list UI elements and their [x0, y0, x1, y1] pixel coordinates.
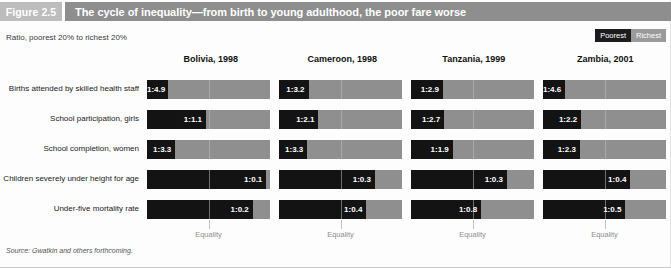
stacked-bar: 1:0.4 — [279, 200, 402, 219]
bar-value-label: 1:0.2 — [147, 200, 253, 219]
column-headers: Bolivia, 1998Cameroon, 1998Tanzania, 199… — [145, 54, 671, 68]
chart-rows: Births attended by skilled health staff1… — [0, 74, 671, 224]
stacked-bar: 1:2.9 — [411, 80, 534, 99]
bar-value-label: 1:0.3 — [411, 170, 507, 189]
chart-cell: 1:0.3 — [407, 170, 539, 189]
bar-value-label: 1:0.4 — [279, 200, 366, 219]
bar-value-label: 1:0.1 — [147, 170, 266, 189]
chart-cell: 1:2.9 — [407, 80, 539, 99]
row-cells: 1:3.31:3.31:1.91:2.3 — [143, 140, 671, 159]
chart-cell: 1:2.3 — [539, 140, 671, 159]
equality-guide-line — [209, 110, 210, 129]
equality-guide-line — [473, 140, 474, 159]
row-label: Children severely under height for age — [0, 174, 143, 184]
equality-axis-cell: Equality — [539, 224, 671, 248]
bar-value-label: 1:0.4 — [543, 170, 630, 189]
bar-value-label: 1:2.9 — [411, 80, 443, 99]
chart-cell: 1:0.5 — [539, 200, 671, 219]
bar-value-label: 1:1.1 — [147, 110, 206, 129]
equality-guide-line — [473, 80, 474, 99]
bar-value-label: 1:2.2 — [543, 110, 581, 129]
chart-cell: 1:2.1 — [275, 110, 407, 129]
chart-cell: 1:0.4 — [539, 170, 671, 189]
chart-cell: 1:0.1 — [143, 170, 275, 189]
equality-axis-cell: Equality — [275, 224, 407, 248]
equality-axis-cell: Equality — [143, 224, 275, 248]
stacked-bar: 1:0.4 — [543, 170, 666, 189]
chart-cell: 1:4.6 — [539, 80, 671, 99]
equality-label: Equality — [195, 230, 222, 239]
row-cells: 1:0.21:0.41:0.81:0.5 — [143, 200, 671, 219]
stacked-bar: 1:0.3 — [279, 170, 402, 189]
stacked-bar: 1:2.3 — [543, 140, 666, 159]
chart-row: School participation, girls1:1.11:2.11:2… — [0, 104, 671, 134]
column-header: Zambia, 2001 — [540, 54, 671, 68]
bar-value-label: 1:0.5 — [543, 200, 625, 219]
stacked-bar: 1:1.9 — [411, 140, 534, 159]
bar-value-label: 1:3.3 — [279, 140, 307, 159]
column-header: Tanzania, 1999 — [408, 54, 540, 68]
stacked-bar: 1:4.9 — [147, 80, 270, 99]
chart-row: School completion, women1:3.31:3.31:1.91… — [0, 134, 671, 164]
equality-guide-line — [341, 80, 342, 99]
stacked-bar: 1:2.2 — [543, 110, 666, 129]
row-label: Under-five mortality rate — [0, 204, 143, 214]
stacked-bar: 1:0.1 — [147, 170, 270, 189]
equality-guide-line — [341, 140, 342, 159]
equality-label: Equality — [591, 230, 618, 239]
column-header: Bolivia, 1998 — [145, 54, 277, 68]
bar-value-label: 1:2.7 — [411, 110, 444, 129]
equality-guide-line — [605, 80, 606, 99]
equality-guide-line — [605, 140, 606, 159]
chart-cell: 1:3.2 — [275, 80, 407, 99]
stacked-bar: 1:0.2 — [147, 200, 270, 219]
legend-item-poorest: Poorest — [595, 29, 631, 42]
chart-cell: 1:2.2 — [539, 110, 671, 129]
equality-axis: EqualityEqualityEqualityEquality — [143, 224, 671, 248]
chart-cell: 1:0.4 — [275, 200, 407, 219]
figure-number-badge: Figure 2.5 — [0, 2, 62, 21]
equality-guide-line — [209, 140, 210, 159]
chart-cell: 1:0.8 — [407, 200, 539, 219]
row-cells: 1:4.91:3.21:2.91:4.6 — [143, 80, 671, 99]
chart-row: Children severely under height for age1:… — [0, 164, 671, 194]
equality-label: Equality — [327, 230, 354, 239]
stacked-bar: 1:0.3 — [411, 170, 534, 189]
equality-guide-line — [473, 110, 474, 129]
row-label: School completion, women — [0, 144, 143, 154]
row-cells: 1:1.11:2.11:2.71:2.2 — [143, 110, 671, 129]
bar-value-label: 1:2.1 — [279, 110, 318, 129]
equality-guide-line — [605, 110, 606, 129]
bar-value-label: 1:0.3 — [279, 170, 375, 189]
bar-value-label: 1:3.3 — [147, 140, 175, 159]
legend-item-richest: Richest — [631, 29, 666, 42]
stacked-bar: 1:3.3 — [279, 140, 402, 159]
stacked-bar: 1:2.1 — [279, 110, 402, 129]
stacked-bar: 1:4.6 — [543, 80, 666, 99]
row-label: School participation, girls — [0, 114, 143, 124]
chart-cell: 1:4.9 — [143, 80, 275, 99]
bar-value-label: 1:3.2 — [279, 80, 309, 99]
figure-container: Figure 2.5 The cycle of inequality—from … — [0, 0, 671, 268]
chart-cell: 1:1.1 — [143, 110, 275, 129]
chart-row: Births attended by skilled health staff1… — [0, 74, 671, 104]
stacked-bar: 1:0.8 — [411, 200, 534, 219]
column-header: Cameroon, 1998 — [277, 54, 409, 68]
stacked-bar: 1:2.7 — [411, 110, 534, 129]
equality-guide-line — [341, 110, 342, 129]
stacked-bar: 1:0.5 — [543, 200, 666, 219]
equality-guide-line — [209, 80, 210, 99]
chart-row: Under-five mortality rate1:0.21:0.41:0.8… — [0, 194, 671, 224]
equality-tick — [605, 220, 606, 229]
stacked-bar: 1:3.3 — [147, 140, 270, 159]
equality-tick — [341, 220, 342, 229]
equality-axis-cell: Equality — [407, 224, 539, 248]
legend: Poorest Richest — [595, 29, 666, 42]
stacked-bar: 1:3.2 — [279, 80, 402, 99]
bar-value-label: 1:2.3 — [543, 140, 580, 159]
source-note: Source: Gwatkin and others forthcoming. — [6, 247, 133, 254]
chart-cell: 1:0.3 — [275, 170, 407, 189]
row-cells: 1:0.11:0.31:0.31:0.4 — [143, 170, 671, 189]
bar-value-label: 1:1.9 — [411, 140, 453, 159]
chart-cell: 1:2.7 — [407, 110, 539, 129]
